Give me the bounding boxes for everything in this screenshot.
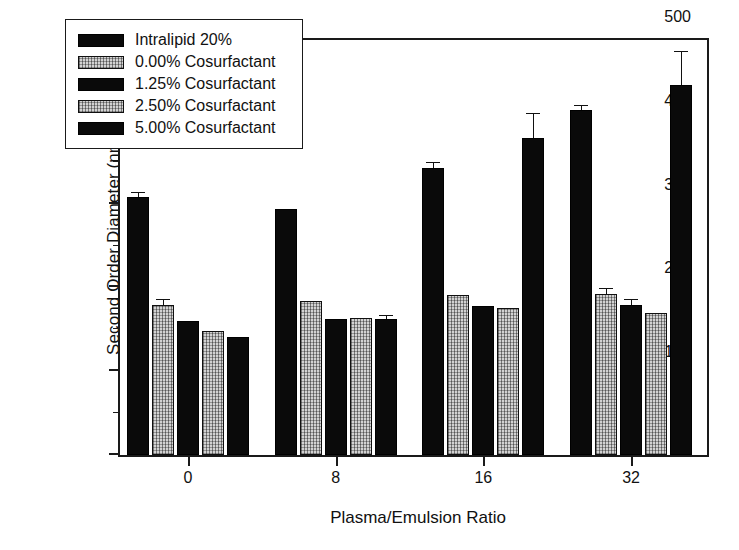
- bar: [447, 295, 469, 455]
- error-bar-cap: [599, 288, 613, 289]
- x-tick-label: 16: [453, 469, 513, 487]
- legend-label: 1.25% Cosurfactant: [135, 75, 276, 93]
- legend-swatch-icon: [78, 34, 124, 47]
- bar: [227, 337, 249, 455]
- legend-swatch-icon: [78, 122, 124, 135]
- y-tick-minor: [113, 328, 120, 329]
- bar: [202, 331, 224, 455]
- bar: [497, 308, 519, 455]
- error-bar-cap: [624, 299, 638, 300]
- x-tick-mark: [336, 455, 338, 466]
- x-axis-title: Plasma/Emulsion Ratio: [118, 508, 718, 528]
- legend-item: 0.00% Cosurfactant: [78, 51, 292, 73]
- error-bar-cap: [674, 51, 688, 52]
- legend-item: Intralipid 20%: [78, 29, 292, 51]
- bar: [325, 319, 347, 455]
- y-tick-label: 500: [631, 8, 691, 26]
- bar: [375, 319, 397, 455]
- y-tick-major: [109, 202, 120, 204]
- error-bar-cap: [156, 299, 170, 300]
- bar: [350, 318, 372, 455]
- bar: [645, 313, 667, 455]
- error-bar: [386, 316, 387, 319]
- error-bar-cap: [574, 105, 588, 106]
- chart-legend: Intralipid 20%0.00% Cosurfactant1.25% Co…: [65, 19, 303, 149]
- x-tick-label: 0: [158, 469, 218, 487]
- error-bar: [163, 300, 164, 305]
- bar: [570, 110, 592, 455]
- legend-label: Intralipid 20%: [135, 31, 232, 49]
- error-bar-cap: [426, 162, 440, 163]
- x-tick-label: 8: [306, 469, 366, 487]
- legend-swatch-icon: [78, 56, 124, 69]
- legend-item: 1.25% Cosurfactant: [78, 73, 292, 95]
- x-tick-mark: [483, 455, 485, 466]
- error-bar-cap: [131, 192, 145, 193]
- legend-label: 0.00% Cosurfactant: [135, 53, 276, 71]
- error-bar: [581, 106, 582, 109]
- legend-swatch-icon: [78, 78, 124, 91]
- legend-item: 2.50% Cosurfactant: [78, 95, 292, 117]
- y-tick-major: [109, 285, 120, 287]
- legend-label: 5.00% Cosurfactant: [135, 119, 276, 137]
- x-tick-mark: [188, 455, 190, 466]
- x-tick-mark: [631, 455, 633, 466]
- bar: [472, 306, 494, 455]
- bar: [127, 197, 149, 455]
- bar: [300, 301, 322, 455]
- bar: [620, 305, 642, 455]
- error-bar: [631, 300, 632, 305]
- y-tick-major: [109, 453, 120, 455]
- error-bar: [433, 163, 434, 169]
- error-bar: [138, 193, 139, 197]
- x-tick-label: 32: [601, 469, 661, 487]
- bar: [152, 305, 174, 455]
- error-bar: [533, 114, 534, 138]
- bar-chart-figure: Second Order Diameter (nm) 0100200300400…: [0, 0, 739, 550]
- y-tick-major: [109, 369, 120, 371]
- error-bar: [606, 289, 607, 294]
- y-tick-minor: [113, 245, 120, 246]
- bar: [177, 321, 199, 455]
- bar: [670, 85, 692, 455]
- bar: [522, 138, 544, 455]
- bar: [275, 209, 297, 455]
- error-bar-cap: [526, 113, 540, 114]
- error-bar: [681, 52, 682, 86]
- error-bar-cap: [379, 315, 393, 316]
- y-tick-minor: [113, 412, 120, 413]
- legend-swatch-icon: [78, 100, 124, 113]
- bar: [422, 168, 444, 455]
- legend-label: 2.50% Cosurfactant: [135, 97, 276, 115]
- bar: [595, 294, 617, 455]
- legend-item: 5.00% Cosurfactant: [78, 117, 292, 139]
- y-tick-minor: [113, 161, 120, 162]
